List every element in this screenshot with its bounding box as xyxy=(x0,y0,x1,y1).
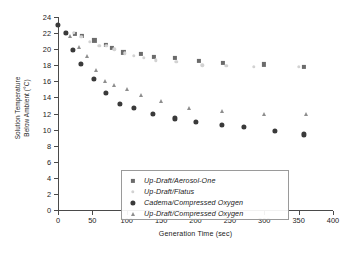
data-point xyxy=(262,112,266,116)
data-point xyxy=(91,76,96,81)
data-point xyxy=(302,65,306,69)
data-point xyxy=(142,56,145,59)
data-point xyxy=(241,125,246,130)
x-tick xyxy=(58,211,59,215)
data-point xyxy=(297,65,300,68)
y-tick-label: 18 xyxy=(43,61,51,70)
x-tick xyxy=(333,211,334,215)
legend-marker-glyph xyxy=(131,190,134,193)
y-tick xyxy=(54,65,58,66)
legend-item[interactable]: Up-Draft/Flatus xyxy=(122,186,288,197)
y-tick-label: 4 xyxy=(47,173,51,182)
data-point xyxy=(77,45,81,49)
y-tick xyxy=(54,162,58,163)
y-tick xyxy=(54,194,58,195)
data-point xyxy=(272,128,277,133)
y-tick xyxy=(54,17,58,18)
y-tick xyxy=(54,97,58,98)
data-point xyxy=(112,83,116,87)
y-axis-title-line2: Below Ambient (°C) xyxy=(23,79,30,136)
legend-item[interactable]: Up-Draft/Aerosol-One xyxy=(122,175,288,186)
x-tick-label: 350 xyxy=(292,216,304,225)
legend-label: Cadema/Compressed Oxygen xyxy=(144,198,243,207)
data-point xyxy=(219,122,224,127)
y-tick-label: 10 xyxy=(43,125,51,134)
y-tick-label: 14 xyxy=(43,93,51,102)
data-point xyxy=(55,22,60,27)
data-point xyxy=(150,112,155,117)
y-tick xyxy=(54,33,58,34)
data-point xyxy=(197,59,201,63)
x-tick xyxy=(92,211,93,215)
x-axis-title: Generation Time (sec) xyxy=(58,230,333,238)
data-point xyxy=(201,64,204,67)
data-point xyxy=(125,87,129,91)
data-point xyxy=(225,64,228,67)
y-tick-label: 24 xyxy=(43,13,51,22)
plot-area: 024681012141618202224 050100150200250300… xyxy=(58,17,333,211)
y-tick-label: 16 xyxy=(43,77,51,86)
data-point xyxy=(98,44,101,47)
data-point xyxy=(68,34,72,38)
data-point xyxy=(132,54,135,57)
data-point xyxy=(117,101,122,106)
legend-label: Up-Draft/Aerosol-One xyxy=(144,176,216,185)
legend-marker-icon xyxy=(122,175,144,186)
y-tick xyxy=(54,130,58,131)
y-axis-title-line1: Solution Temperature xyxy=(14,77,21,140)
legend-marker-icon xyxy=(122,208,144,219)
legend-marker-glyph xyxy=(131,178,135,182)
legend-marker-glyph xyxy=(131,212,135,216)
y-tick xyxy=(54,81,58,82)
data-point xyxy=(71,47,76,52)
x-tick-label: 0 xyxy=(56,216,60,225)
chart-legend: Up-Draft/Aerosol-OneUp-Draft/FlatusCadem… xyxy=(121,170,289,220)
data-point xyxy=(159,99,163,103)
legend-item[interactable]: Up-Draft/Compressed Oxygen xyxy=(122,208,288,219)
y-tick-label: 20 xyxy=(43,45,51,54)
data-point xyxy=(302,132,307,137)
y-axis-title: Solution Temperature Below Ambient (°C) xyxy=(10,28,36,188)
data-point xyxy=(85,54,89,58)
data-point xyxy=(94,68,98,72)
data-point xyxy=(123,51,126,54)
y-tick xyxy=(54,114,58,115)
y-tick-label: 22 xyxy=(43,29,51,38)
y-axis-line xyxy=(58,17,59,211)
data-point xyxy=(88,40,91,43)
legend-marker-glyph xyxy=(130,200,135,205)
data-point xyxy=(193,119,198,124)
y-tick-label: 12 xyxy=(43,109,51,118)
y-tick-label: 0 xyxy=(47,206,51,215)
legend-marker-icon xyxy=(122,197,144,208)
y-tick xyxy=(54,146,58,147)
data-point xyxy=(187,106,191,110)
data-point xyxy=(113,47,116,50)
data-point xyxy=(172,116,177,121)
x-tick-label: 50 xyxy=(88,216,96,225)
legend-label: Up-Draft/Compressed Oxygen xyxy=(144,209,243,218)
legend-item[interactable]: Cadema/Compressed Oxygen xyxy=(122,197,288,208)
y-tick-label: 2 xyxy=(47,189,51,198)
y-tick-label: 8 xyxy=(47,141,51,150)
data-point xyxy=(138,52,142,56)
x-tick-label: 400 xyxy=(327,216,339,225)
data-point xyxy=(78,61,83,66)
y-tick xyxy=(54,49,58,50)
data-point xyxy=(131,105,136,110)
data-point xyxy=(139,93,143,97)
y-tick-label: 6 xyxy=(47,157,51,166)
data-point xyxy=(103,79,107,83)
y-tick xyxy=(54,178,58,179)
chart-figure: Solution Temperature Below Ambient (°C) … xyxy=(0,0,342,254)
data-point xyxy=(175,60,178,63)
legend-marker-icon xyxy=(122,186,144,197)
data-point xyxy=(154,59,157,62)
data-point xyxy=(262,62,266,66)
data-point xyxy=(92,38,96,42)
data-point xyxy=(104,90,109,95)
x-tick xyxy=(299,211,300,215)
legend-label: Up-Draft/Flatus xyxy=(144,187,194,196)
data-point xyxy=(252,65,255,68)
data-point xyxy=(304,112,308,116)
